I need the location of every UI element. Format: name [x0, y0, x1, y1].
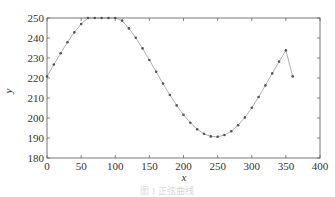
y-tick-label: 200 [28, 112, 45, 124]
x-tick-label: 0 [44, 160, 50, 172]
y-tick-label: 240 [28, 32, 45, 44]
data-line [47, 18, 293, 137]
data-point [175, 104, 178, 107]
data-point [223, 134, 226, 137]
x-tick-label: 250 [209, 160, 226, 172]
data-point [196, 128, 199, 131]
data-point [114, 17, 117, 20]
y-tick-label: 250 [28, 12, 45, 24]
x-tick-label: 50 [76, 160, 88, 172]
data-point [237, 124, 240, 127]
data-point [128, 27, 131, 30]
data-point [203, 133, 206, 136]
data-point [250, 107, 253, 110]
y-tick-label: 190 [28, 132, 45, 144]
data-point [278, 60, 281, 63]
data-point [271, 72, 274, 75]
x-tick-label: 150 [141, 160, 158, 172]
data-point [162, 82, 165, 85]
data-point [182, 114, 185, 117]
x-axis-label: x [181, 171, 187, 183]
data-point [264, 84, 267, 87]
data-point [66, 41, 69, 44]
data-point [210, 135, 213, 138]
data-point [216, 136, 219, 139]
data-point [230, 130, 233, 133]
data-point [134, 37, 137, 40]
data-point [107, 17, 110, 20]
x-axis: 050100150200250300350400 [44, 18, 329, 172]
data-point [80, 23, 83, 26]
figure-caption: 图 1 正弦曲线 [140, 185, 194, 196]
data-point [155, 71, 158, 74]
data-point [244, 116, 247, 119]
data-point [285, 49, 288, 52]
y-axis: 180190200210220230240250 [28, 12, 321, 164]
plot-frame [47, 18, 320, 158]
data-point [87, 17, 90, 20]
y-tick-label: 230 [28, 52, 45, 64]
data-point [148, 59, 151, 62]
data-point [141, 47, 144, 50]
y-tick-label: 210 [28, 92, 45, 104]
x-tick-label: 100 [107, 160, 124, 172]
x-tick-label: 350 [278, 160, 295, 172]
line-chart: 180190200210220230240250 050100150200250… [0, 0, 335, 197]
data-point [169, 94, 172, 97]
x-tick-label: 300 [244, 160, 261, 172]
data-point [100, 17, 103, 20]
y-tick-label: 180 [28, 152, 45, 164]
data-point [189, 122, 192, 125]
data-point [73, 31, 76, 34]
data-markers [46, 17, 294, 138]
data-point [257, 96, 260, 99]
data-point [291, 75, 294, 78]
data-point [53, 63, 56, 66]
data-point [59, 52, 62, 55]
y-axis-label: y [2, 88, 14, 94]
data-point [121, 19, 124, 22]
data-point [93, 17, 96, 20]
data-point [46, 75, 49, 78]
y-tick-label: 220 [28, 72, 45, 84]
x-tick-label: 400 [312, 160, 329, 172]
